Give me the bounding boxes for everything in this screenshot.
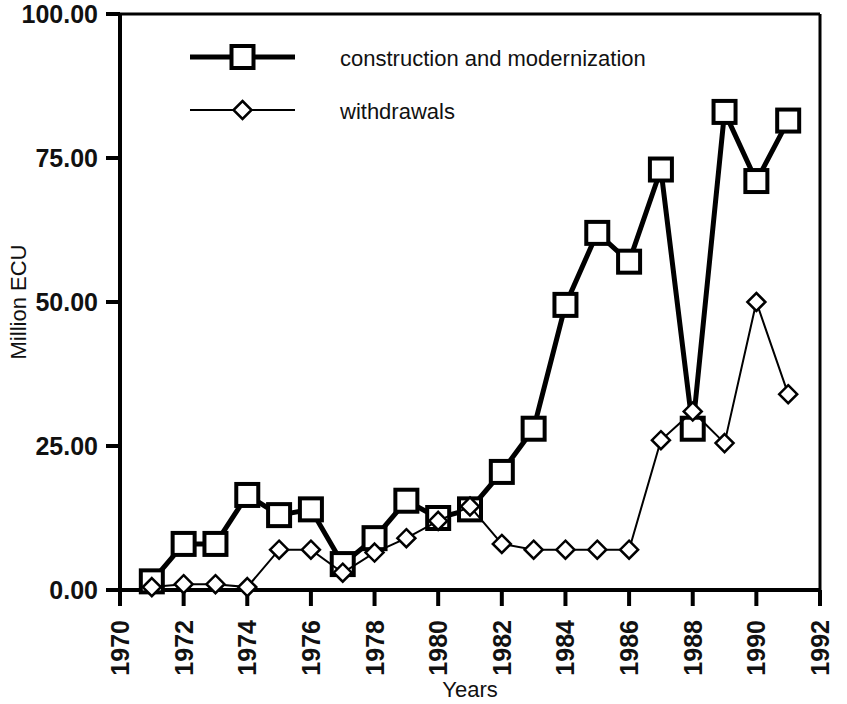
- y-axis-ticks: 0.0025.0050.0075.00100.00: [22, 0, 120, 604]
- legend-label: construction and modernization: [340, 46, 646, 71]
- chart-legend: construction and modernizationwithdrawal…: [190, 46, 646, 124]
- data-point-square: [745, 170, 767, 192]
- data-point-square: [395, 490, 417, 512]
- x-axis-title: Years: [442, 677, 497, 702]
- series-line: [152, 302, 788, 587]
- series-2: [143, 293, 797, 596]
- data-point-diamond: [620, 541, 638, 559]
- data-point-diamond: [525, 541, 543, 559]
- data-point-square: [236, 484, 258, 506]
- data-point-square: [268, 504, 290, 526]
- x-tick-label: 1992: [806, 620, 834, 676]
- data-point-square: [650, 159, 672, 181]
- x-tick-label: 1970: [106, 620, 134, 676]
- data-point-diamond: [234, 101, 252, 119]
- data-point-diamond: [556, 541, 574, 559]
- legend-item-1[interactable]: construction and modernization: [190, 46, 646, 71]
- data-point-square: [300, 498, 322, 520]
- data-point-square: [714, 101, 736, 123]
- legend-label: withdrawals: [339, 99, 455, 124]
- chart-figure: 0.0025.0050.0075.00100.00 19701972197419…: [0, 0, 847, 704]
- data-point-square: [232, 46, 254, 68]
- x-tick-label: 1980: [424, 620, 452, 676]
- x-tick-label: 1976: [297, 620, 325, 676]
- data-point-square: [491, 461, 513, 483]
- data-point-diamond: [588, 541, 606, 559]
- data-point-square: [173, 533, 195, 555]
- legend-item-2[interactable]: withdrawals: [190, 99, 455, 124]
- x-tick-label: 1988: [679, 620, 707, 676]
- y-tick-label: 25.00: [35, 432, 98, 460]
- data-point-square: [586, 222, 608, 244]
- x-tick-label: 1986: [615, 620, 643, 676]
- data-point-square: [554, 294, 576, 316]
- series-1: [141, 101, 799, 592]
- line-chart: 0.0025.0050.0075.00100.00 19701972197419…: [0, 0, 847, 704]
- y-axis-title: Million ECU: [6, 245, 31, 360]
- data-point-square: [777, 110, 799, 132]
- x-tick-label: 1990: [742, 620, 770, 676]
- y-tick-label: 0.00: [49, 576, 98, 604]
- data-series-layer: [141, 101, 799, 596]
- y-tick-label: 100.00: [22, 0, 98, 28]
- x-axis-ticks: 1970197219741976197819801982198419861988…: [106, 590, 834, 676]
- x-tick-label: 1984: [551, 620, 579, 676]
- x-tick-label: 1978: [361, 620, 389, 676]
- y-tick-label: 75.00: [35, 144, 98, 172]
- data-point-square: [618, 251, 640, 273]
- data-point-diamond: [302, 541, 320, 559]
- data-point-diamond: [397, 529, 415, 547]
- data-point-square: [523, 418, 545, 440]
- x-tick-label: 1982: [488, 620, 516, 676]
- data-point-square: [204, 533, 226, 555]
- data-point-diamond: [747, 293, 765, 311]
- x-tick-label: 1972: [170, 620, 198, 676]
- x-tick-label: 1974: [233, 620, 261, 676]
- data-point-diamond: [779, 385, 797, 403]
- y-tick-label: 50.00: [35, 288, 98, 316]
